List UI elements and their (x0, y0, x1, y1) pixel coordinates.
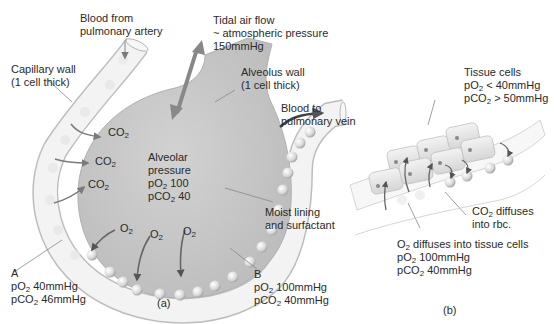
o2-label-3: O2 (183, 225, 196, 238)
label-point-a: A pO2 40mmHg pCO2 46mmHg (11, 267, 86, 306)
o2-label-1: O2 (120, 222, 133, 235)
label-tidal-air-flow: Tidal air flow ~ atmospheric pressure 15… (213, 14, 328, 53)
co2-label-3: CO2 (88, 178, 109, 191)
alveolar-pressure-label: Alveolar pressure pO2 100 pCO2 40 (148, 151, 191, 203)
o2-label-2: O2 (150, 228, 163, 241)
co2-label-2: CO2 (95, 155, 116, 168)
label-tissue-cells: Tissue cells pO2 < 40mmHg pCO2 > 50mmHg (464, 66, 548, 105)
caption-b: (b) (443, 304, 456, 317)
label-blood-from-artery: Blood from pulmonary artery (80, 12, 163, 38)
label-blood-to-vein: Blood to pulmonary vein (281, 102, 356, 128)
co2-label-1: CO2 (108, 126, 129, 139)
label-o2-diffuses: O2 diffuses into tissue cells pO2 100mmH… (397, 238, 528, 277)
label-co2-diffuses: CO2 diffuses into rbc. (472, 205, 534, 231)
label-capillary-wall: Capillary wall (1 cell thick) (11, 63, 76, 89)
caption-a: (a) (157, 297, 170, 310)
label-point-b: B pO2 100mmHg pCO2 40mmHg (254, 268, 329, 307)
label-alveolus-wall: Alveolus wall (1 cell thick) (241, 66, 305, 92)
label-moist-lining: Moist lining and surfactant (265, 206, 335, 232)
